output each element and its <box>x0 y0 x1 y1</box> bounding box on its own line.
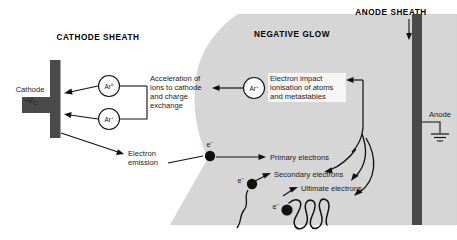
svg-text:exchange: exchange <box>150 101 183 110</box>
ionisation-note: Electron impact ionisation of atoms and … <box>268 73 346 102</box>
svg-text:and charge: and charge <box>150 92 188 101</box>
region-label-negative-glow: NEGATIVE GLOW <box>254 30 330 39</box>
cathode-label: Cathode <box>16 85 45 94</box>
secondary-electrons-note: Secondary electrons <box>274 170 343 179</box>
region-label-cathode-sheath: CATHODE SHEATH <box>57 33 140 42</box>
diagram-canvas: CATHODE SHEATH NEGATIVE GLOW ANODE SHEAT… <box>0 0 457 240</box>
glow-discharge-diagram: CATHODE SHEATH NEGATIVE GLOW ANODE SHEAT… <box>0 0 457 240</box>
svg-text:ions to cathode: ions to cathode <box>150 83 202 92</box>
electron-emission-note: Electron emission <box>128 149 158 167</box>
particle-ar-neutral: Ar0 <box>99 76 120 97</box>
particle-ar-ion-cathode: Ar+ <box>99 109 120 130</box>
anode-label: Anode <box>429 110 451 119</box>
primary-electrons-note: Primary electrons <box>270 153 329 162</box>
svg-text:Electron: Electron <box>128 149 156 158</box>
anode-electrode <box>412 14 422 225</box>
particle-ar-ion-glow: Ar+ <box>244 78 265 99</box>
svg-text:ionisation of atoms: ionisation of atoms <box>270 83 334 92</box>
svg-text:emission: emission <box>128 158 158 167</box>
svg-text:Acceleration of: Acceleration of <box>150 74 201 83</box>
svg-text:Electron impact: Electron impact <box>270 74 323 83</box>
ultimate-electrons-note: Ultimate electrons <box>301 184 362 193</box>
svg-text:and metastables: and metastables <box>270 92 326 101</box>
